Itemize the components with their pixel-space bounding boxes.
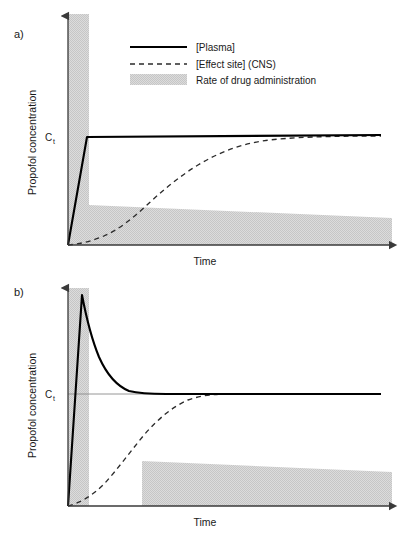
panel-a-ct-label: C: [45, 132, 52, 143]
legend-label-plasma: [Plasma]: [196, 42, 235, 53]
legend-shaded-band-icon: [130, 74, 187, 85]
legend-label-effect-site: [Effect site] (CNS): [196, 59, 276, 70]
panel-b-label: b): [14, 286, 24, 298]
propofol-concentration-figure: a) C t Propofol concentration Time [Plas…: [0, 0, 402, 540]
panel-a-bolus-band: [68, 14, 89, 245]
panel-a-label: a): [14, 28, 24, 40]
panel-a-ct-subscript: t: [53, 138, 55, 145]
panel-b-ct-subscript: t: [53, 395, 55, 402]
legend-label-rate: Rate of drug administration: [196, 75, 316, 86]
panel-b-ct-label: C: [45, 389, 52, 400]
panel-b-y-axis-title: Propofol concentration: [26, 353, 38, 458]
figure-container: a) C t Propofol concentration Time [Plas…: [0, 0, 402, 540]
panel-a-x-axis-title: Time: [194, 255, 217, 267]
panel-a-y-axis-title: Propofol concentration: [26, 90, 38, 195]
panel-b-x-axis-title: Time: [194, 516, 217, 528]
legend-item-rate: Rate of drug administration: [130, 74, 316, 86]
